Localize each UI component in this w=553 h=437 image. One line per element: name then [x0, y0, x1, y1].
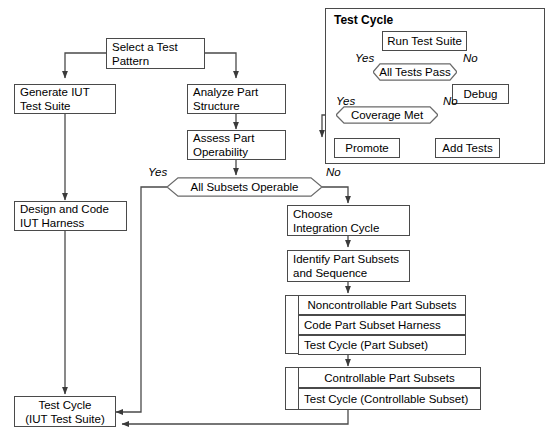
node-label-line2: IUT Harness [20, 216, 121, 230]
node-label-line2: Operability [193, 145, 280, 159]
node-choose-integration-cycle[interactable]: Choose Integration Cycle [287, 205, 410, 236]
group-item-code-part-subset-harness[interactable]: Code Part Subset Harness [298, 315, 466, 335]
node-label-line2: Structure [193, 99, 280, 113]
decision-label: All Subsets Operable [167, 177, 322, 197]
flowchart-diagram: Select a Test Pattern Generate IUT Test … [0, 0, 553, 437]
node-label-line1: Choose [293, 207, 404, 221]
node-design-and-code-iut-harness[interactable]: Design and Code IUT Harness [14, 201, 127, 231]
node-label: Test Cycle (Controllable Subset) [304, 392, 475, 406]
node-label-line2: Pattern [112, 54, 199, 68]
node-label: Code Part Subset Harness [304, 318, 460, 332]
node-label: Test Cycle (Part Subset) [304, 338, 460, 352]
decision-label: Coverage Met [336, 106, 438, 124]
node-label-line1: Select a Test [112, 40, 199, 54]
edge-label-all-tests-pass-no: No [463, 52, 478, 64]
decision-all-tests-pass[interactable]: All Tests Pass [373, 63, 457, 81]
node-debug[interactable]: Debug [452, 84, 509, 104]
decision-coverage-met[interactable]: Coverage Met [336, 106, 438, 124]
node-assess-part-operability[interactable]: Assess Part Operability [187, 130, 286, 160]
node-label-line2: (IUT Test Suite) [25, 412, 104, 426]
node-run-test-suite[interactable]: Run Test Suite [382, 31, 467, 51]
node-add-tests[interactable]: Add Tests [435, 138, 500, 158]
group-item-test-cycle-controllable-subset[interactable]: Test Cycle (Controllable Subset) [298, 388, 481, 410]
edge-label-coverage-met-no: No [443, 95, 458, 107]
group-item-test-cycle-part-subset[interactable]: Test Cycle (Part Subset) [298, 335, 466, 355]
node-label-line2: Integration Cycle [293, 221, 404, 235]
node-promote[interactable]: Promote [334, 138, 400, 158]
node-label: Promote [345, 141, 388, 155]
node-label-line1: Assess Part [193, 131, 280, 145]
node-select-test-pattern[interactable]: Select a Test Pattern [106, 38, 205, 69]
group-title: Controllable Part Subsets [324, 371, 454, 385]
node-analyze-part-structure[interactable]: Analyze Part Structure [187, 84, 286, 114]
node-label: Debug [464, 87, 498, 101]
group-header-noncontrollable: Noncontrollable Part Subsets [298, 295, 466, 315]
group-header-controllable: Controllable Part Subsets [298, 367, 481, 388]
node-label: Run Test Suite [387, 34, 462, 48]
node-generate-iut-test-suite[interactable]: Generate IUT Test Suite [14, 84, 116, 114]
group-title: Noncontrollable Part Subsets [308, 298, 457, 312]
edge-label-all-subsets-operable-yes: Yes [148, 166, 167, 178]
node-label-line1: Test Cycle [38, 398, 91, 412]
edge-label-all-tests-pass-yes: Yes [355, 52, 374, 64]
node-label-line1: Design and Code [20, 202, 121, 216]
decision-label: All Tests Pass [373, 63, 457, 81]
edge-label-coverage-met-yes: Yes [336, 95, 355, 107]
test-cycle-frame-title: Test Cycle [334, 13, 393, 27]
node-label-line1: Identify Part Subsets [293, 252, 404, 266]
edge-label-all-subsets-operable-no: No [326, 166, 341, 178]
decision-all-subsets-operable[interactable]: All Subsets Operable [167, 177, 322, 197]
node-label: Add Tests [442, 141, 492, 155]
node-label-line2: and Sequence [293, 266, 404, 280]
node-label-line2: Test Suite [20, 99, 110, 113]
node-label-line1: Analyze Part [193, 85, 280, 99]
node-test-cycle-iut-test-suite[interactable]: Test Cycle (IUT Test Suite) [14, 396, 116, 427]
node-label-line1: Generate IUT [20, 85, 110, 99]
node-identify-part-subsets[interactable]: Identify Part Subsets and Sequence [287, 250, 410, 282]
